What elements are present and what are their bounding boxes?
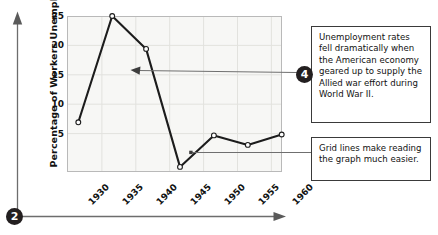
annotation-note-gridlines: Grid lines make reading the graph much e… xyxy=(311,137,431,181)
step-marker-2: 2 xyxy=(6,208,23,225)
y-axis-callout-arrow xyxy=(13,12,22,214)
step-marker-4: 4 xyxy=(296,66,313,83)
leader-line-note-2 xyxy=(189,151,311,154)
data-series-line xyxy=(78,16,281,167)
data-point-markers xyxy=(76,14,284,170)
x-axis-callout-arrow xyxy=(18,212,287,221)
annotation-note-unemployment: Unemployment rates fell dramatically whe… xyxy=(311,26,431,123)
leader-line-note-1 xyxy=(131,67,298,75)
annotation-note-text: Grid lines make reading the graph much e… xyxy=(319,143,424,166)
annotation-note-text: Unemployment rates fell dramatically whe… xyxy=(319,32,424,100)
figure-root: 25 20 15 10 5 1930 1935 1940 1945 1950 1… xyxy=(0,0,438,235)
